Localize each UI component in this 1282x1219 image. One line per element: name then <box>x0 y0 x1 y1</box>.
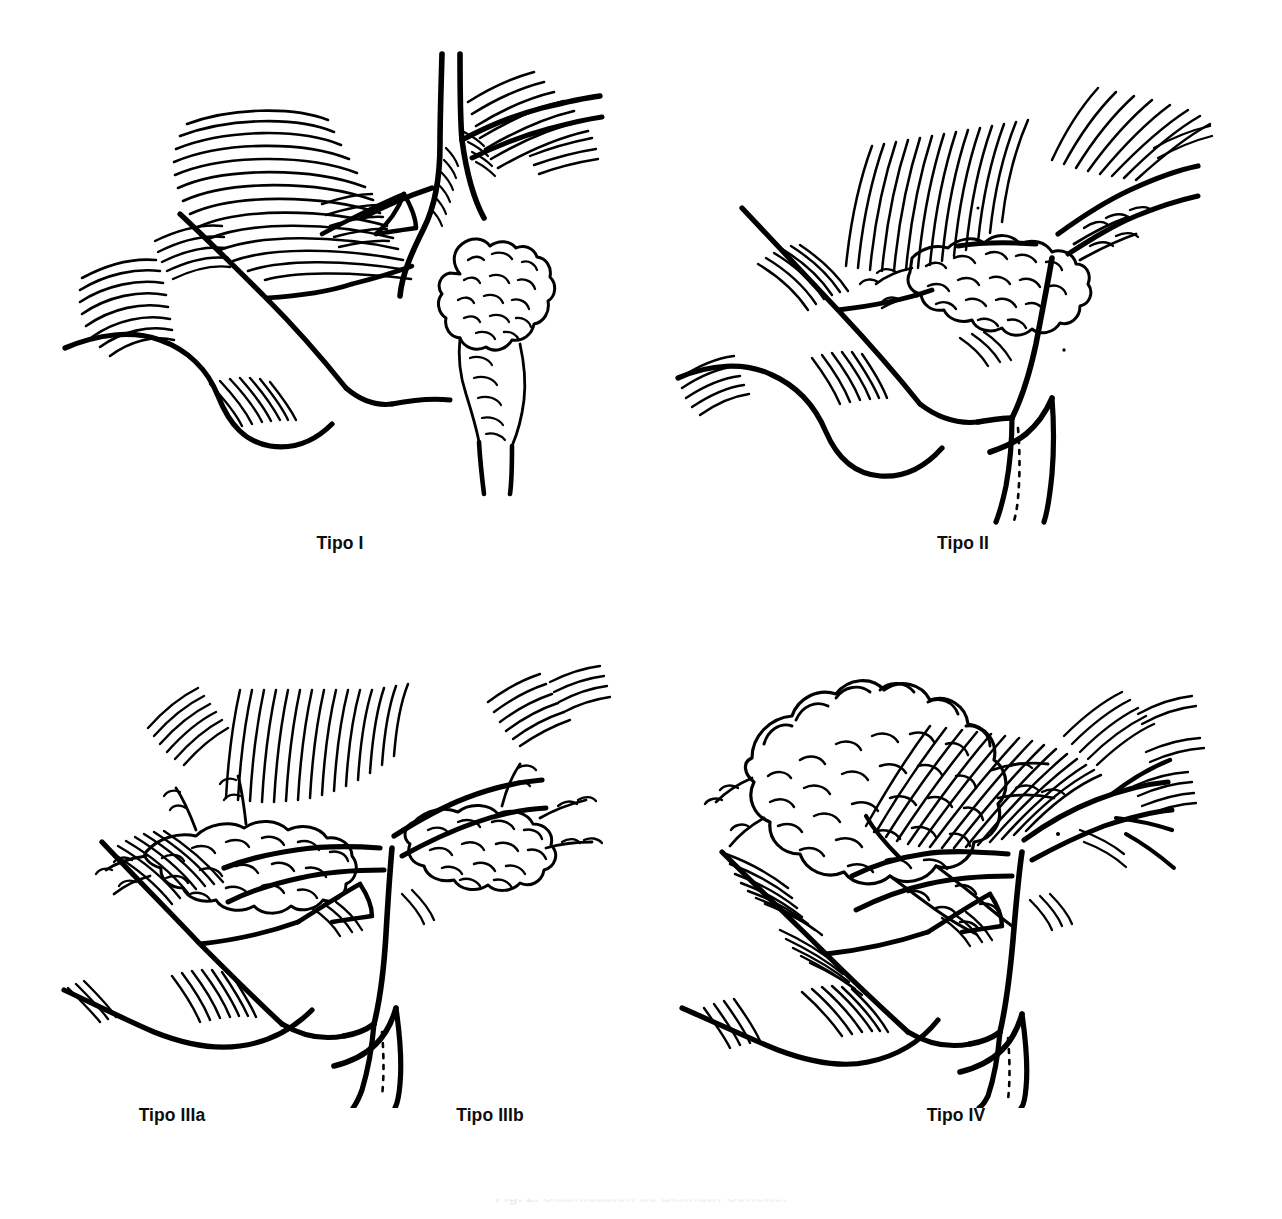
label-tipo-ii: Tipo II <box>863 533 1063 554</box>
label-tipo-i: Tipo I <box>240 533 440 554</box>
figure-caption-lead: Fig. 2. <box>495 1199 538 1205</box>
panel-tipo-i: Tipo I <box>60 28 620 528</box>
illustration-tipo-iii <box>50 608 630 1108</box>
illustration-tipo-ii <box>660 28 1220 528</box>
label-tipo-iv: Tipo IV <box>856 1105 1056 1126</box>
panel-tipo-ii: Tipo II <box>660 28 1220 528</box>
illustration-tipo-i <box>60 28 620 528</box>
panel-tipo-iv: Tipo IV <box>660 608 1240 1108</box>
figure-bismuth-corlette: Tipo I <box>0 0 1282 1219</box>
figure-caption-text: Clasificacion de Bismuth-Corlette. <box>543 1199 787 1205</box>
label-tipo-iiib: Tipo IIIb <box>390 1105 590 1126</box>
panel-tipo-iii: Tipo IIIa Tipo IIIb <box>50 608 630 1108</box>
figure-caption: Fig. 2. Clasificacion de Bismuth-Corlett… <box>0 1199 1282 1219</box>
illustration-tipo-iv <box>660 608 1240 1108</box>
label-tipo-iiia: Tipo IIIa <box>72 1105 272 1126</box>
